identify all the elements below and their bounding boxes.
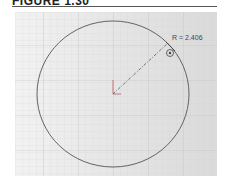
sketch-graphics [0,0,225,186]
radius-dimension-label[interactable]: R = 2.406 [172,34,203,41]
